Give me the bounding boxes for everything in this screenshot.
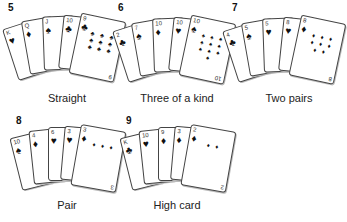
card-pips: ♦ ♦ [193,141,229,184]
diamond-icon: ♦ [25,29,32,40]
club-icon: ♣ [228,37,237,49]
card-fan: 4 ♣ 5 ♠ 5 ♥ 8 ♥ 8 ♦ ♦ ♦ ♦ ♦ ♦ ♦ ♦ ♦ 8 [228,2,338,92]
hand-pair: 8 10 ♠ 4 ♦ 6 ♥ 3 ♥ 3 ♦ ♦ ♦ ♦ 3 Pair [4,115,114,215]
card-rank-bottom: 8 [328,76,333,83]
playing-card: 2 ♦ ♦ ♦ 2 [180,124,236,193]
spade-icon: ♠ [135,31,142,42]
spade-icon: ♠ [190,24,197,35]
diamond-icon: ♦ [32,139,38,149]
hand-three-of-a-kind: 6 2 ♣ 7 ♠ 10 ♦ 10 ♥ 10 ♠ ♠ ♠ ♠ ♠ ♠ ♠ ♠ ♠… [114,2,224,102]
card-pips: ♦ ♦ ♦ ♦ ♦ ♦ ♦ ♦ [301,32,338,75]
hand-label: Pair [12,199,122,211]
heart-icon: ♥ [142,139,149,150]
diamond-icon: ♦ [81,133,88,144]
card-fan: K ♣ 10 ♥ 9 ♦ 3 ♦ 2 ♦ ♦ ♦ 2 [114,115,224,205]
card-pips: ♠ ♠ ♠ ♠ ♠ ♠ ♠ ♠ ♠ ♠ [191,32,228,75]
diamond-icon: ♦ [161,136,166,146]
diamond-icon: ♦ [300,24,307,35]
hand-straight: 5 K ♥ Q ♦ J ♠ 10 ♣ 9 ♣ ♣ ♣ ♣ ♣ ♣ ♣ ♣ ♣ ♣… [4,2,114,102]
spade-icon: ♠ [45,25,51,35]
hand-label: Three of a kind [122,92,232,104]
card-fan: K ♥ Q ♦ J ♠ 10 ♣ 9 ♣ ♣ ♣ ♣ ♣ ♣ ♣ ♣ ♣ ♣ 9 [4,2,114,92]
card-rank-bottom: 9 [108,74,113,81]
heart-icon: ♥ [66,135,73,145]
hand-high-card: 9 K ♣ 10 ♥ 9 ♦ 3 ♦ 2 ♦ ♦ ♦ 2 High card [114,115,224,215]
card-rank-bottom: 10 [214,75,222,82]
hand-two-pairs: 7 4 ♣ 5 ♠ 5 ♥ 8 ♥ 8 ♦ ♦ ♦ ♦ ♦ ♦ ♦ ♦ ♦ 8 … [228,2,338,102]
heart-icon: ♥ [8,35,17,46]
heart-icon: ♥ [51,136,57,146]
hand-label: High card [122,199,232,211]
spade-icon: ♠ [14,145,22,156]
spade-icon: ♠ [245,31,252,42]
card-rank-bottom: 2 [220,184,224,190]
diamond-icon: ♦ [176,135,182,145]
card-fan: 10 ♠ 4 ♦ 6 ♥ 3 ♥ 3 ♦ ♦ ♦ ♦ 3 [4,115,114,205]
hand-label: Straight [12,92,122,104]
club-icon: ♣ [65,24,73,35]
heart-icon: ♥ [285,26,292,37]
heart-icon: ♥ [265,27,271,37]
heart-icon: ♥ [175,26,182,37]
card-fan: 2 ♣ 7 ♠ 10 ♦ 10 ♥ 10 ♠ ♠ ♠ ♠ ♠ ♠ ♠ ♠ ♠ ♠… [114,2,224,92]
diamond-icon: ♦ [191,133,198,144]
diamond-icon: ♦ [155,27,160,37]
hand-label: Two pairs [234,92,344,104]
club-icon: ♣ [124,145,133,156]
club-icon: ♣ [118,37,127,49]
